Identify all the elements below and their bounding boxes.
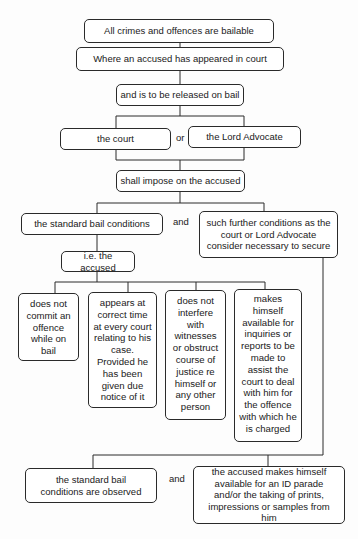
node-label: appears at correct time at every court r… — [93, 297, 152, 403]
node-label: the Lord Advocate — [206, 131, 283, 143]
node-label: the court — [97, 133, 134, 145]
node-label: i.e. the accused — [65, 250, 131, 273]
node-label: such further conditions as the court or … — [206, 217, 331, 252]
node-ie-the-accused: i.e. the accused — [61, 251, 135, 272]
node-all-crimes-bailable: All crimes and offences are bailable — [84, 19, 274, 43]
node-cond-no-offence: does not commit an offence while on bail — [18, 293, 79, 361]
node-label: the accused makes himself available for … — [202, 466, 336, 524]
node-label: the standard bail conditions — [34, 218, 150, 230]
node-lord-advocate: the Lord Advocate — [188, 126, 301, 148]
node-cond-no-interference: does not interfere with witnesses or obs… — [165, 290, 226, 420]
node-shall-impose: shall impose on the accused — [116, 170, 245, 192]
node-the-court: the court — [60, 128, 171, 150]
node-label: does not interfere with witnesses or obs… — [170, 295, 221, 413]
node-accused-appeared: Where an accused has appeared in court — [76, 47, 284, 71]
node-id-parade: the accused makes himself available for … — [193, 466, 345, 524]
node-label: the standard bail conditions are observe… — [40, 474, 142, 497]
connector-and-2: and — [169, 473, 185, 484]
node-released-on-bail: and is to be released on bail — [116, 84, 244, 106]
connector-or: or — [176, 132, 184, 143]
node-cond-available-inquiries: makes himself available for inquiries or… — [234, 289, 302, 442]
connector-lines — [0, 0, 358, 539]
node-label: makes himself available for inquiries or… — [238, 293, 298, 435]
node-cond-appears-in-court: appears at correct time at every court r… — [88, 292, 157, 408]
node-label: shall impose on the accused — [121, 175, 241, 187]
node-standard-bail-conditions: the standard bail conditions — [21, 213, 163, 235]
node-standard-observed: the standard bail conditions are observe… — [25, 468, 157, 503]
connector-and-1: and — [173, 216, 189, 227]
node-label: does not commit an offence while on bail — [24, 298, 73, 357]
node-further-conditions: such further conditions as the court or … — [199, 211, 338, 258]
node-label: All crimes and offences are bailable — [104, 25, 254, 37]
node-label: and is to be released on bail — [121, 89, 240, 101]
node-label: Where an accused has appeared in court — [93, 53, 267, 65]
